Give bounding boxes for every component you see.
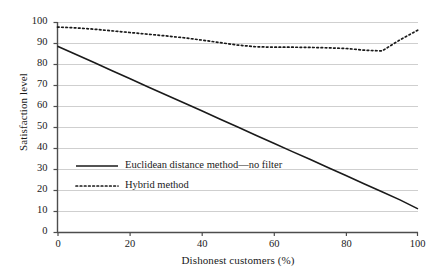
x-tick-label: 60 — [254, 238, 294, 249]
x-tick-label: 40 — [182, 238, 222, 249]
y-tick-label: 50 — [18, 120, 48, 131]
series-line-hybrid — [58, 27, 419, 51]
y-tick-label: 60 — [18, 99, 48, 110]
chart-figure: Satisfaction level Dishonest customers (… — [0, 0, 436, 274]
x-tick-label: 20 — [110, 238, 150, 249]
y-tick-label: 10 — [18, 204, 48, 215]
y-axis-title: Satisfaction level — [17, 0, 29, 232]
legend-label-hybrid: Hybrid method — [125, 179, 189, 190]
y-tick-label: 70 — [18, 78, 48, 89]
chart-canvas — [0, 0, 436, 274]
x-tick-label: 80 — [326, 238, 366, 249]
y-tick-label: 20 — [18, 183, 48, 194]
y-tick-label: 30 — [18, 162, 48, 173]
y-tick-label: 90 — [18, 36, 48, 47]
y-tick-label: 100 — [18, 15, 48, 26]
x-axis-title: Dishonest customers (%) — [57, 254, 419, 266]
y-tick-label: 80 — [18, 57, 48, 68]
y-tick-label: 40 — [18, 141, 48, 152]
legend-label-euclidean: Euclidean distance method—no filter — [125, 159, 282, 170]
x-tick-label: 0 — [38, 238, 78, 249]
y-tick-label: 0 — [18, 225, 48, 236]
x-tick-label: 100 — [398, 238, 436, 249]
